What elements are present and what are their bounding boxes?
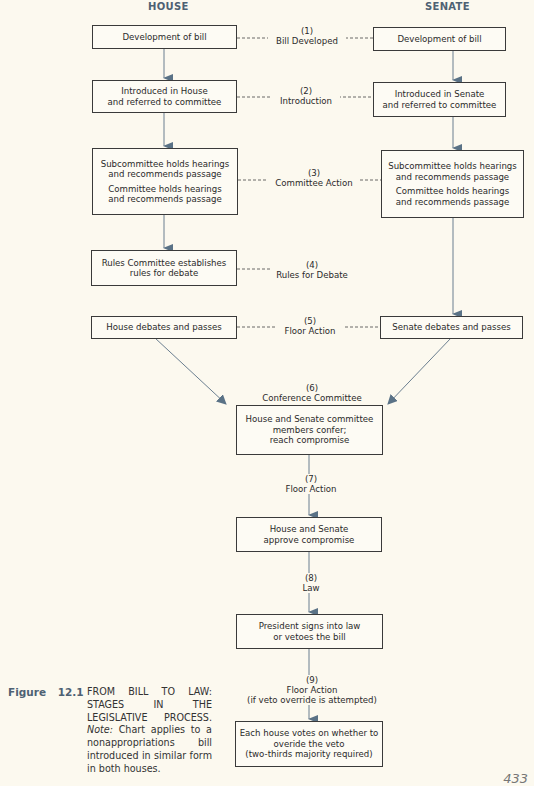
caption-note-label: Note: (87, 724, 113, 735)
page-number: 433 (503, 771, 528, 786)
stage-6-label: (6) Conference Committee (255, 383, 369, 403)
house-rules-box: Rules Committee establishes rules for de… (91, 250, 237, 286)
stage-7-label: (7) Floor Action (279, 474, 343, 494)
figure-caption: FROM BILL TO LAW: STAGES IN THE LEGISLAT… (87, 686, 212, 776)
box-text: House debates and passes (106, 322, 221, 333)
box-text: Development of bill (122, 32, 206, 43)
box-text: Introduced in Senate and referred to com… (383, 89, 497, 110)
caption-title: FROM BILL TO LAW: STAGES IN THE LEGISLAT… (87, 686, 212, 723)
box-text: House and Senate committee members confe… (246, 414, 374, 446)
stage-1-label: (1) Bill Developed (268, 26, 346, 46)
subcommittee-text: Subcommittee holds hearings and recommen… (388, 161, 517, 182)
committee-text: Committee holds hearings and recommends … (108, 184, 222, 205)
box-text: Rules Committee establishes rules for de… (102, 258, 227, 279)
subcommittee-text: Subcommittee holds hearings and recommen… (101, 159, 230, 180)
box-text: Each house votes on whether to overide t… (240, 728, 379, 760)
box-text: House and Senate approve compromise (264, 524, 355, 545)
stage-8-label: (8) Law (294, 573, 328, 593)
veto-override-box: Each house votes on whether to overide t… (235, 721, 383, 767)
house-committee-box: Subcommittee holds hearings and recommen… (92, 148, 238, 215)
box-text: Senate debates and passes (392, 322, 511, 333)
box-text: President signs into law or vetoes the b… (259, 621, 361, 642)
house-development-box: Development of bill (92, 25, 237, 49)
senate-introduction-box: Introduced in Senate and referred to com… (373, 82, 506, 117)
senate-development-box: Development of bill (373, 27, 506, 51)
stage-3-label: (3) Committee Action (270, 168, 358, 188)
conference-box: House and Senate committee members confe… (236, 405, 383, 455)
approve-compromise-box: House and Senate approve compromise (236, 517, 382, 552)
senate-floor-box: Senate debates and passes (380, 316, 523, 339)
president-box: President signs into law or vetoes the b… (236, 614, 383, 649)
committee-text: Committee holds hearings and recommends … (396, 186, 510, 207)
figure-label: Figure 12.1 (8, 686, 84, 698)
stage-5-label: (5) Floor Action (277, 316, 343, 336)
stage-4-label: (4) Rules for Debate (272, 260, 352, 280)
box-text: Development of bill (397, 34, 481, 45)
box-text: Introduced in House and referred to comm… (108, 86, 222, 107)
house-floor-box: House debates and passes (91, 316, 237, 339)
senate-committee-box: Subcommittee holds hearings and recommen… (381, 150, 524, 218)
stage-2-label: (2) Introduction (272, 86, 340, 106)
stage-9-label: (9) Floor Action (if veto override is at… (232, 675, 392, 705)
house-introduction-box: Introduced in House and referred to comm… (92, 80, 237, 113)
